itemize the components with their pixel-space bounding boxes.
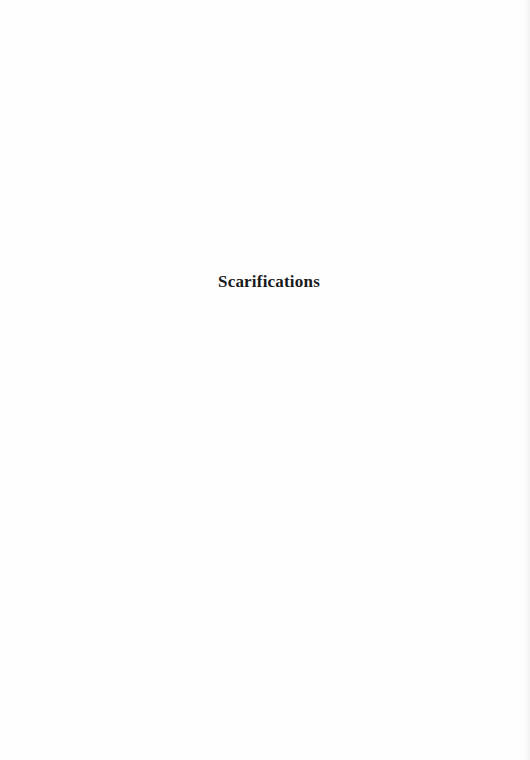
page-edge-shadow — [524, 0, 530, 760]
book-page: Scarifications — [0, 0, 530, 760]
page-title: Scarifications — [0, 270, 530, 294]
